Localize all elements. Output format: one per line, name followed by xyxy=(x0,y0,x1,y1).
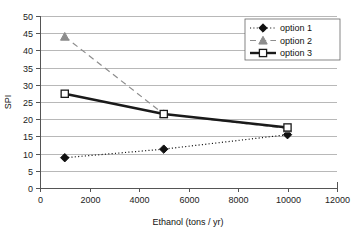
y-tick-label: 45 xyxy=(23,29,33,39)
data-point-marker xyxy=(61,90,68,97)
y-axis-tick-labels: 05101520253035404550 xyxy=(23,12,33,194)
x-tick-label: 0 xyxy=(38,195,43,205)
y-tick-label: 0 xyxy=(28,184,33,194)
y-tick-label: 25 xyxy=(23,98,33,108)
x-tick-label: 12000 xyxy=(325,195,350,205)
x-tick-label: 10000 xyxy=(276,195,301,205)
y-tick-label: 50 xyxy=(23,12,33,22)
y-tick-label: 5 xyxy=(28,167,33,177)
x-axis-tick-labels: 020004000600080001000012000 xyxy=(38,195,350,205)
x-tick-label: 4000 xyxy=(129,195,149,205)
legend-item-3[interactable]: option 3 xyxy=(250,48,312,58)
y-tick-label: 15 xyxy=(23,132,33,142)
y-tick-label: 10 xyxy=(23,150,33,160)
chart-figure: 05101520253035404550 0200040006000800010… xyxy=(0,0,357,235)
data-point-marker xyxy=(160,110,167,117)
legend-label: option 3 xyxy=(280,48,312,58)
chart-legend: option 1option 2option 3 xyxy=(245,19,340,60)
y-axis-ticks xyxy=(36,17,40,189)
y-tick-label: 40 xyxy=(23,46,33,56)
chart-canvas: 05101520253035404550 0200040006000800010… xyxy=(0,0,357,235)
y-tick-label: 30 xyxy=(23,81,33,91)
x-axis-ticks xyxy=(41,188,338,192)
legend-label: option 2 xyxy=(280,36,312,46)
data-point-marker xyxy=(284,124,291,131)
legend-label: option 1 xyxy=(280,23,312,33)
x-axis-title: Ethanol (tons / yr) xyxy=(152,217,223,227)
x-tick-label: 8000 xyxy=(228,195,248,205)
y-tick-label: 20 xyxy=(23,115,33,125)
y-tick-label: 35 xyxy=(23,64,33,74)
y-axis-title: SPI xyxy=(3,95,13,110)
x-tick-label: 6000 xyxy=(179,195,199,205)
data-point-marker xyxy=(259,49,266,56)
x-tick-label: 2000 xyxy=(80,195,100,205)
